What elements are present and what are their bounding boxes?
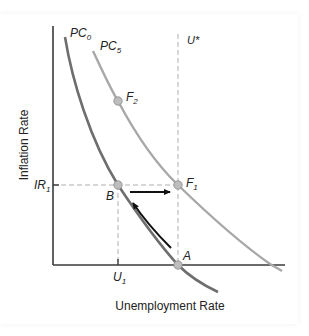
a-label: A — [182, 249, 191, 263]
point-f1 — [174, 181, 182, 189]
arrow-a-to-b — [133, 203, 171, 248]
f2-label: F2 — [126, 90, 138, 106]
pc5-label: PC5 — [100, 39, 122, 55]
point-b — [114, 181, 122, 189]
phillips-curve-diagram: PC0 PC5 U* F2 F1 B A IR1 U1 Inflation Ra… — [0, 0, 309, 336]
natural-rate-label: U* — [187, 34, 200, 46]
ir1-label: IR1 — [34, 178, 50, 194]
pc5-curve — [93, 51, 282, 271]
x-axis-title: Unemployment Rate — [115, 299, 225, 313]
b-label: B — [106, 189, 114, 203]
point-a — [174, 261, 182, 269]
pc0-label: PC0 — [70, 26, 92, 42]
y-axis-title: Inflation Rate — [17, 109, 31, 180]
pc0-curve — [65, 37, 218, 292]
f1-label: F1 — [186, 176, 198, 192]
point-f2 — [114, 97, 122, 105]
u1-label: U1 — [113, 270, 126, 286]
